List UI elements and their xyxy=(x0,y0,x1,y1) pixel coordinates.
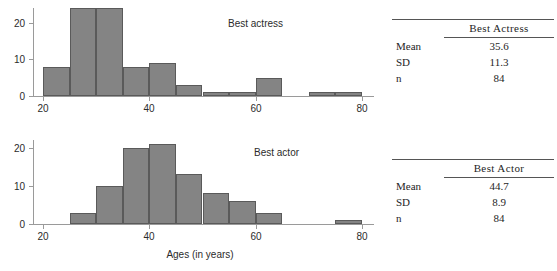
x-axis-tick xyxy=(362,97,363,101)
table-header-best-actress: Best Actress xyxy=(444,22,554,34)
y-axis-tick-label: 10 xyxy=(1,54,25,65)
y-axis-tick-label: 20 xyxy=(1,143,25,154)
y-axis-tick-label: 0 xyxy=(1,219,25,230)
x-axis-tick-label: 80 xyxy=(356,103,367,114)
cell-label-sd: SD xyxy=(392,55,444,69)
cell-label-sd: SD xyxy=(392,195,444,209)
y-axis-tick xyxy=(29,23,33,24)
histogram-bar xyxy=(96,186,123,224)
histogram-bar xyxy=(256,78,283,96)
cell-label-mean: Mean xyxy=(392,39,444,53)
histogram-bar xyxy=(123,67,150,96)
histogram-bar xyxy=(203,193,230,224)
cell-value-sd: 11.3 xyxy=(444,55,554,69)
series-label-best-actor: Best actor xyxy=(254,147,299,158)
histogram-bar xyxy=(70,213,97,224)
table-header-spacer xyxy=(392,162,444,174)
y-axis-tick xyxy=(29,59,33,60)
x-axis-tick xyxy=(43,97,44,101)
histogram-bar xyxy=(70,8,97,96)
histogram-bar xyxy=(123,148,150,224)
cell-value-n: 84 xyxy=(444,71,554,85)
table-row: n 84 xyxy=(392,70,554,86)
y-axis-tick-label: 10 xyxy=(1,181,25,192)
x-axis-line xyxy=(33,96,374,97)
x-axis-tick xyxy=(256,225,257,229)
x-axis-tick xyxy=(362,225,363,229)
table-header-best-actor: Best Actor xyxy=(444,162,554,174)
x-axis-line xyxy=(33,224,374,225)
x-axis-title: Ages (in years) xyxy=(166,249,233,260)
table-row: SD 11.3 xyxy=(392,54,554,70)
y-axis-tick xyxy=(29,186,33,187)
cell-value-mean: 35.6 xyxy=(444,39,554,53)
histogram-bar xyxy=(149,63,176,96)
histogram-best-actor: 0102020406080 Best actor Ages (in years) xyxy=(0,130,380,271)
x-axis-tick-label: 40 xyxy=(143,231,154,242)
histogram-best-actress: 0102020406080 Best actress xyxy=(0,0,380,118)
x-axis-tick xyxy=(256,97,257,101)
cell-label-n: n xyxy=(392,71,444,85)
y-axis-line xyxy=(33,8,34,96)
histogram-bar xyxy=(96,8,123,96)
x-axis-tick-label: 20 xyxy=(37,231,48,242)
x-axis-tick-label: 80 xyxy=(356,231,367,242)
cell-value-n: 84 xyxy=(444,211,554,225)
table-row: SD 8.9 xyxy=(392,194,554,210)
x-axis-tick-label: 60 xyxy=(250,103,261,114)
histogram-bar xyxy=(229,201,256,224)
histogram-bar xyxy=(176,85,203,96)
table-header-row: Best Actor xyxy=(392,160,554,177)
x-axis-tick xyxy=(149,225,150,229)
y-axis-tick-label: 20 xyxy=(1,18,25,29)
series-label-best-actress: Best actress xyxy=(228,18,283,29)
table-row: n 84 xyxy=(392,210,554,226)
stats-table-best-actor: Best Actor Mean 44.7 SD 8.9 n 84 xyxy=(392,159,554,226)
y-axis-line xyxy=(33,140,34,224)
x-axis-tick-label: 20 xyxy=(37,103,48,114)
table-row: Mean 44.7 xyxy=(392,178,554,194)
table-header-row: Best Actress xyxy=(392,20,554,37)
y-axis-tick-label: 0 xyxy=(1,91,25,102)
x-axis-tick-label: 40 xyxy=(143,103,154,114)
histogram-bar xyxy=(256,213,283,224)
x-axis-tick xyxy=(149,97,150,101)
cell-value-mean: 44.7 xyxy=(444,179,554,193)
x-axis-tick xyxy=(43,225,44,229)
plot-area-actress: 0102020406080 xyxy=(0,0,380,118)
stats-table-best-actress: Best Actress Mean 35.6 SD 11.3 n 84 xyxy=(392,19,554,86)
cell-label-mean: Mean xyxy=(392,179,444,193)
histogram-bar xyxy=(43,67,70,96)
histogram-bar xyxy=(149,144,176,224)
x-axis-tick-label: 60 xyxy=(250,231,261,242)
cell-label-n: n xyxy=(392,211,444,225)
y-axis-tick xyxy=(29,148,33,149)
table-row: Mean 35.6 xyxy=(392,38,554,54)
figure-root: 0102020406080 Best actress 0102020406080… xyxy=(0,0,557,271)
histogram-bar xyxy=(176,174,203,224)
cell-value-sd: 8.9 xyxy=(444,195,554,209)
table-header-spacer xyxy=(392,22,444,34)
